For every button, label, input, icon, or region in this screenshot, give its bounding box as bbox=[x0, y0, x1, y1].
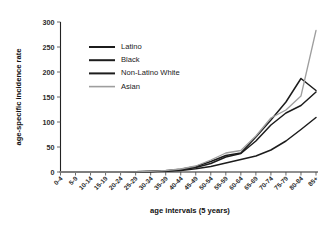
chart-figure: 050100150200250300 0-45-910-1415-1920-24… bbox=[0, 0, 334, 230]
series-line-latino bbox=[61, 118, 317, 173]
legend-label-black: Black bbox=[121, 55, 140, 64]
legend-label-non-latino-white: Non-Latino White bbox=[121, 68, 180, 77]
y-axis-title: age-specific incidence rate bbox=[14, 48, 23, 145]
x-tick-label: 60-64 bbox=[228, 174, 245, 191]
y-tick-label: 150 bbox=[43, 93, 55, 102]
x-tick-label: 70-74 bbox=[258, 174, 275, 191]
y-tick-label: 200 bbox=[43, 68, 55, 77]
x-tick-label: 30-34 bbox=[137, 174, 154, 191]
chart-legend: LatinoBlackNon-Latino WhiteAsian bbox=[89, 42, 180, 91]
x-tick-label: 20-24 bbox=[107, 174, 124, 191]
x-tick-label: 15-19 bbox=[92, 174, 109, 191]
series-line-non-latino-white bbox=[61, 92, 317, 172]
y-tick-label: 250 bbox=[43, 43, 55, 52]
x-tick-label: 10-14 bbox=[77, 174, 94, 191]
line-chart: 050100150200250300 0-45-910-1415-1920-24… bbox=[0, 0, 334, 230]
x-tick-label: 85+ bbox=[307, 175, 320, 188]
series-line-asian bbox=[61, 31, 317, 173]
x-tick-label: 75-79 bbox=[273, 174, 290, 191]
y-tick-label: 300 bbox=[43, 18, 55, 27]
legend-label-asian: Asian bbox=[121, 82, 140, 91]
series-line-black bbox=[61, 79, 317, 173]
y-tick-label: 0 bbox=[51, 168, 55, 177]
x-tick-label: 35-39 bbox=[152, 174, 169, 191]
legend-label-latino: Latino bbox=[121, 42, 142, 51]
y-tick-label: 100 bbox=[43, 118, 55, 127]
x-tick-label: 25-29 bbox=[122, 174, 139, 191]
x-tick-label: 55-59 bbox=[213, 174, 230, 191]
y-axis: 050100150200250300 bbox=[43, 18, 61, 177]
x-axis: 0-45-910-1415-1920-2425-2930-3435-3940-4… bbox=[52, 172, 319, 191]
x-tick-label: 80-84 bbox=[288, 174, 305, 191]
x-axis-title: age intervals (5 years) bbox=[150, 206, 230, 215]
y-tick-label: 50 bbox=[47, 143, 55, 152]
x-tick-label: 5-9 bbox=[67, 174, 79, 186]
x-tick-label: 45-49 bbox=[182, 174, 199, 191]
series-lines bbox=[61, 31, 317, 173]
x-tick-label: 50-54 bbox=[197, 174, 214, 191]
x-tick-label: 40-44 bbox=[167, 174, 184, 191]
x-tick-label: 65-69 bbox=[243, 174, 260, 191]
